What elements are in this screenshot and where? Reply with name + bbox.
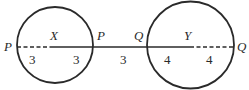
two-circles-diagram: P X P 3 3 3 Q Y Q 4 4: [0, 0, 249, 90]
label-p-right: P: [96, 28, 105, 43]
label-q-right: Q: [237, 39, 247, 54]
label-x: X: [49, 28, 59, 43]
label-q-left: Q: [134, 28, 144, 43]
label-y: Y: [184, 28, 193, 43]
label-p-left: P: [3, 39, 12, 54]
circle-y: [147, 2, 234, 89]
label-x-left-segment: 3: [29, 52, 36, 67]
label-connector-segment: 3: [120, 52, 127, 67]
label-y-left-segment: 4: [164, 52, 171, 67]
label-x-right-segment: 3: [73, 52, 80, 67]
circle-x: [17, 7, 93, 83]
label-y-right-segment: 4: [206, 52, 213, 67]
